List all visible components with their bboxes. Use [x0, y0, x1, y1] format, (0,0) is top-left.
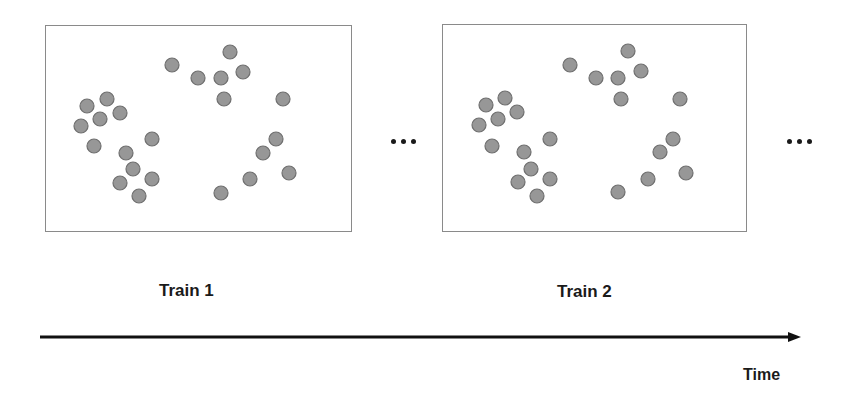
time-axis-label: Time — [743, 367, 780, 383]
arrowhead-icon — [788, 332, 801, 342]
time-axis-arrow — [0, 0, 855, 401]
